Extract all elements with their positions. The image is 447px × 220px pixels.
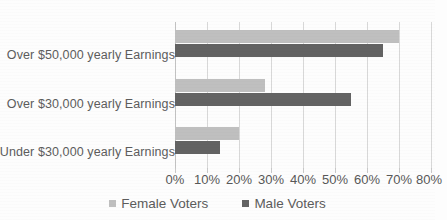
legend-item-male: Male Voters — [242, 196, 325, 211]
gridline-80 — [431, 22, 432, 168]
x-tick-label: 0% — [166, 172, 185, 187]
bar-male — [175, 93, 351, 106]
x-tick-label: 50% — [322, 172, 348, 187]
x-tick-label: 10% — [194, 172, 220, 187]
bar-female — [175, 127, 239, 140]
x-tick-label: 60% — [354, 172, 380, 187]
chart-legend: Female Voters Male Voters — [0, 196, 435, 211]
x-tick-label: 40% — [290, 172, 316, 187]
x-axis-labels: 0% 10% 20% 30% 40% 50% 60% 70% 80% — [175, 172, 431, 190]
category-label: Over $50,000 yearly Earnings — [7, 48, 175, 62]
plot-area — [175, 22, 431, 168]
category-label: Under $30,000 yearly Earnings — [0, 145, 175, 159]
legend-swatch-icon — [109, 200, 116, 207]
x-tick-label: 30% — [258, 172, 284, 187]
bar-male — [175, 141, 220, 154]
x-tick-label: 20% — [226, 172, 252, 187]
bar-female — [175, 79, 265, 92]
legend-item-female: Female Voters — [109, 196, 208, 211]
bar-group — [175, 30, 431, 60]
bar-male — [175, 44, 383, 57]
legend-label: Male Voters — [254, 196, 325, 211]
x-tick-label: 70% — [386, 172, 412, 187]
x-tick-label: 80% — [416, 172, 442, 187]
bar-group — [175, 79, 431, 109]
bar-female — [175, 30, 399, 43]
legend-label: Female Voters — [121, 196, 208, 211]
legend-swatch-icon — [242, 200, 249, 207]
category-label: Over $30,000 yearly Earnings — [7, 97, 175, 111]
bar-group — [175, 127, 431, 157]
